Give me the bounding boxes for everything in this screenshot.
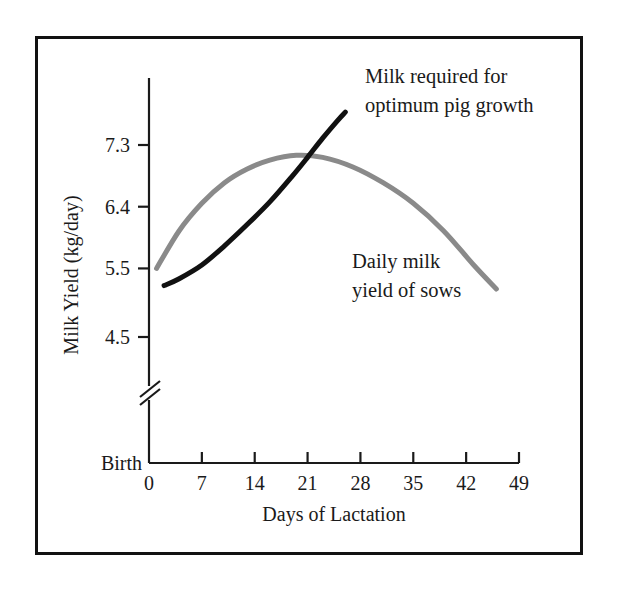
series-layer [157,112,497,289]
y-tick-label: 6.4 [105,196,130,218]
x-tick-label: 14 [245,472,265,494]
figure-container: 4.55.56.47.3 07142128354249 Birth Milk Y… [0,0,623,592]
annotation-daily-milk-line2: yield of sows [352,279,461,302]
x-tick-label: 0 [144,472,154,494]
x-axis-title: Days of Lactation [262,503,405,526]
x-tick-label: 42 [456,472,476,494]
y-tick-label: 5.5 [105,257,130,279]
x-tick-label: 35 [403,472,423,494]
origin-label-birth: Birth [101,452,142,474]
y-tick-label: 7.3 [105,134,130,156]
y-tick-group: 4.55.56.47.3 [105,134,149,348]
x-tick-label: 28 [350,472,370,494]
x-tick-label: 21 [298,472,318,494]
chart-canvas: 4.55.56.47.3 07142128354249 Birth Milk Y… [0,0,623,592]
series-line-milk-required-for-optimum-pig-growth [164,112,345,285]
series-line-daily-milk-yield-of-sows [157,155,497,289]
x-tick-label: 7 [197,472,207,494]
y-axis-title: Milk Yield (kg/day) [60,195,83,354]
axis-lines [149,78,519,463]
x-tick-label: 49 [509,472,529,494]
annotation-milk-required-line1: Milk required for [365,65,507,88]
annotation-milk-required: Milk required for optimum pig growth [365,65,534,117]
annotation-daily-milk-yield: Daily milk yield of sows [352,250,461,302]
annotation-milk-required-line2: optimum pig growth [365,94,534,117]
x-tick-group: 07142128354249 [144,452,529,494]
annotation-daily-milk-line1: Daily milk [352,250,441,273]
y-tick-label: 4.5 [105,326,130,348]
